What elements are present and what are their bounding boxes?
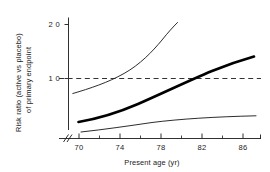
chart-canvas: 2 0 1 0 70 74 78 82 86 xyxy=(0,0,270,172)
y-tick-label-1: 1 0 xyxy=(49,74,60,83)
x-tick-label-74: 74 xyxy=(115,143,124,152)
x-tick-label-86: 86 xyxy=(238,143,247,152)
y-axis-title-line1: Risk ratio (active vs placebo) xyxy=(14,33,23,132)
x-tick-label-82: 82 xyxy=(197,143,206,152)
plot-background xyxy=(0,0,270,172)
y-axis-title-line2: of primary endpoint xyxy=(24,47,33,113)
x-axis-title: Present age (yr) xyxy=(124,158,179,167)
x-tick-label-78: 78 xyxy=(156,143,165,152)
y-tick-label-2: 2 0 xyxy=(49,20,60,29)
x-tick-label-70: 70 xyxy=(74,143,83,152)
risk-ratio-figure: 2 0 1 0 70 74 78 82 86 xyxy=(0,0,270,172)
